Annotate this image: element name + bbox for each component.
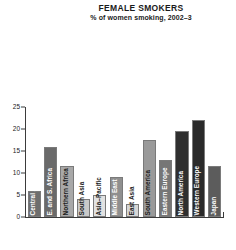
y-tick-mark [21, 195, 25, 196]
bar-group: Northern Africa [60, 107, 73, 217]
bar-group: E. and S. Africa [44, 107, 57, 217]
bar-category-label: Eastern Europe [162, 167, 168, 215]
plot-area: 0510152025 Central AfricaE. and S. Afric… [0, 100, 236, 224]
bar-category-label: North America [178, 171, 184, 215]
y-tick-mark [21, 151, 25, 152]
bar-category-label: Central Africa [30, 173, 36, 215]
y-tick-mark [21, 107, 25, 108]
bar-group: Asia–Pacific [93, 107, 106, 217]
x-axis-line [25, 217, 224, 218]
bar-category-label: Japan [211, 196, 217, 215]
bar-category-label: Asia–Pacific [96, 177, 102, 215]
y-tick-mark [21, 173, 25, 174]
y-tick-mark [21, 217, 25, 218]
bar-category-label: Northern Africa [63, 168, 69, 215]
bar-category-label: East Asia [129, 186, 135, 215]
bars-container: Central AfricaE. and S. AfricaNorthern A… [26, 107, 223, 217]
bar-category-label: Western Europe [195, 165, 201, 215]
y-tick-label: 15 [13, 148, 20, 155]
bar-group: Central Africa [28, 107, 41, 217]
bar-group: South America [143, 107, 156, 217]
bar-group: East Asia [126, 107, 139, 217]
y-axis-tick-labels: 0510152025 [6, 100, 20, 210]
y-tick-mark [21, 129, 25, 130]
chart-figure: FEMALE SMOKERS % of women smoking, 2002–… [0, 0, 236, 250]
y-tick-label: 25 [13, 104, 20, 111]
bar-group: South Asia [77, 107, 90, 217]
chart-subtitle: % of women smoking, 2002–3 [0, 13, 236, 22]
bar-category-label: Middle East [112, 179, 118, 215]
chart-title: FEMALE SMOKERS [0, 3, 236, 13]
bar-group: Japan [208, 107, 221, 217]
bar-group: Eastern Europe [159, 107, 172, 217]
y-tick-label: 0 [16, 214, 20, 221]
bar-group: Middle East [110, 107, 123, 217]
bar-group: Western Europe [192, 107, 205, 217]
bar-group: North America [175, 107, 188, 217]
bar-category-label: South America [145, 169, 151, 215]
chart-header: FEMALE SMOKERS % of women smoking, 2002–… [0, 3, 236, 22]
y-tick-label: 10 [13, 170, 20, 177]
bar-category-label: E. and S. Africa [47, 168, 53, 215]
x-axis-right-cap [223, 212, 224, 218]
bar-category-label: South Asia [80, 181, 86, 215]
y-tick-label: 20 [13, 126, 20, 133]
y-tick-label: 5 [16, 192, 20, 199]
